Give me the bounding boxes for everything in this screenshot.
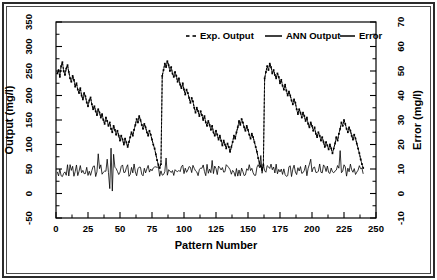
data-marker (252, 136, 254, 138)
data-marker (182, 82, 184, 84)
data-marker (195, 112, 197, 114)
data-marker (137, 122, 139, 124)
data-marker (220, 140, 222, 142)
data-marker (115, 134, 117, 136)
data-marker (184, 94, 186, 96)
y-axis-tick-label: -50 (23, 211, 34, 225)
data-marker (129, 136, 131, 138)
data-marker (247, 129, 249, 131)
data-marker (172, 73, 174, 75)
legend-label-error: Error (359, 30, 383, 41)
data-marker (318, 131, 320, 133)
data-marker (210, 129, 212, 131)
data-marker (154, 148, 156, 150)
y-axis-tick-label: 50 (23, 164, 34, 175)
data-marker (292, 103, 294, 105)
data-marker (274, 74, 276, 76)
data-marker (126, 142, 128, 144)
data-marker (319, 135, 321, 137)
x-axis-tick-label: 225 (336, 223, 353, 234)
data-marker (161, 75, 163, 77)
data-marker (283, 89, 285, 91)
x-axis-tick-label: 0 (53, 223, 58, 234)
y2-axis-tick-label: 30 (395, 115, 406, 126)
data-marker (131, 131, 133, 133)
data-marker (69, 78, 71, 80)
data-marker (251, 133, 253, 135)
data-marker (77, 89, 79, 91)
data-marker (242, 122, 244, 124)
data-marker (352, 139, 354, 141)
data-marker (62, 61, 64, 63)
data-marker (202, 119, 204, 121)
data-marker (295, 102, 297, 104)
data-marker (92, 108, 94, 110)
data-marker (118, 135, 120, 137)
data-marker (273, 69, 275, 71)
data-marker (301, 117, 303, 119)
data-marker (204, 115, 206, 117)
data-marker (192, 101, 194, 103)
data-marker (167, 60, 169, 62)
data-marker (320, 140, 322, 142)
data-marker (68, 71, 70, 73)
data-marker (175, 75, 177, 77)
data-marker (232, 141, 234, 143)
data-marker (271, 73, 273, 75)
data-marker (108, 125, 110, 127)
data-marker (328, 149, 330, 151)
data-marker (237, 127, 239, 129)
data-marker (199, 115, 201, 117)
data-marker (287, 95, 289, 97)
y2-axis-tick-label: 0 (395, 191, 406, 196)
data-marker (233, 135, 235, 137)
data-marker (181, 87, 183, 89)
data-marker (119, 140, 121, 142)
data-marker (59, 76, 61, 78)
data-marker (83, 92, 85, 94)
data-marker (146, 131, 148, 133)
data-marker (88, 100, 90, 102)
data-marker (187, 92, 189, 94)
data-marker (110, 128, 112, 130)
data-marker (279, 82, 281, 84)
data-marker (74, 86, 76, 88)
x-axis-tick-label: 100 (176, 223, 192, 234)
data-marker (342, 125, 344, 127)
data-marker (269, 63, 271, 65)
data-marker (300, 112, 302, 114)
data-marker (350, 130, 352, 132)
data-marker (178, 78, 180, 80)
data-marker (250, 138, 252, 140)
data-marker (186, 89, 188, 91)
data-marker (268, 69, 270, 71)
data-marker (306, 117, 308, 119)
data-marker (87, 105, 89, 107)
data-marker (338, 133, 340, 135)
data-marker (60, 65, 62, 67)
data-marker (147, 135, 149, 137)
data-marker (218, 139, 220, 141)
data-marker (362, 167, 364, 169)
x-axis-title: Pattern Number (175, 239, 258, 251)
y2-axis-tick-label: 40 (395, 90, 406, 101)
data-marker (101, 113, 103, 115)
data-marker (97, 108, 99, 110)
data-marker (238, 120, 240, 122)
data-marker (76, 82, 78, 84)
data-marker (99, 112, 101, 114)
y2-axis-tick-label: -10 (395, 211, 406, 225)
data-marker (197, 110, 199, 112)
data-marker (106, 120, 108, 122)
data-marker (231, 146, 233, 148)
data-marker (266, 65, 268, 67)
data-marker (151, 139, 153, 141)
data-marker (140, 119, 142, 121)
data-marker (303, 115, 305, 117)
y2-axis-tick-label: 10 (395, 164, 406, 175)
data-marker (113, 125, 115, 127)
data-marker (339, 128, 341, 130)
data-marker (58, 69, 60, 71)
data-marker (200, 110, 202, 112)
data-marker (298, 108, 300, 110)
